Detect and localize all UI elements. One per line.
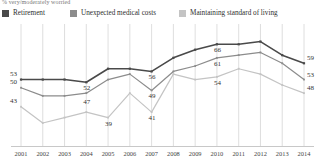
data-point	[216, 43, 218, 45]
legend-label-retirement: Retirement	[13, 9, 45, 18]
legend-swatch-standard	[179, 10, 186, 17]
data-point	[303, 62, 305, 64]
data-point	[64, 117, 66, 119]
data-point	[151, 90, 153, 92]
legend-label-standard: Maintaining standard of living	[190, 9, 278, 18]
data-label: 56	[149, 73, 156, 81]
data-label: 47	[83, 98, 90, 106]
data-label: 39	[105, 120, 112, 128]
data-point	[85, 81, 87, 83]
data-label: 48	[307, 84, 314, 92]
x-tick-label: 2006	[119, 150, 141, 157]
x-tick-label: 2005	[97, 150, 119, 157]
data-label: 43	[10, 97, 17, 105]
data-point	[238, 54, 240, 56]
x-axis-ticks: 2001200220032004200520062007200820092010…	[11, 150, 314, 164]
data-point	[216, 57, 218, 59]
x-tick-label: 2001	[10, 150, 32, 157]
data-point	[260, 73, 262, 75]
data-point	[107, 68, 109, 70]
legend-item-standard[interactable]: Maintaining standard of living	[179, 9, 278, 18]
data-point	[20, 106, 22, 108]
data-point	[151, 70, 153, 72]
data-point	[260, 52, 262, 54]
legend-item-medical[interactable]: Unexpected medical costs	[70, 9, 156, 18]
x-tick-label: 2014	[293, 150, 315, 157]
data-label: 59	[307, 54, 314, 62]
data-point	[151, 111, 153, 113]
data-label: 53	[307, 71, 314, 79]
data-label: 53	[10, 70, 17, 78]
data-point	[281, 84, 283, 86]
data-point	[194, 65, 196, 67]
data-point	[194, 49, 196, 51]
x-axis-line	[11, 146, 314, 147]
data-point	[129, 92, 131, 94]
chart-subtitle: % very/moderately worried	[2, 0, 70, 5]
data-point	[238, 43, 240, 45]
data-point	[172, 73, 174, 75]
data-point	[20, 78, 22, 80]
data-point	[172, 71, 174, 73]
legend-item-retirement[interactable]: Retirement	[2, 9, 45, 18]
data-point	[42, 122, 44, 124]
data-point	[42, 78, 44, 80]
data-point	[281, 54, 283, 56]
x-tick-label: 2003	[54, 150, 76, 157]
legend-label-medical: Unexpected medical costs	[81, 9, 156, 18]
data-point	[42, 95, 44, 97]
data-label: 52	[83, 84, 90, 92]
data-point	[20, 87, 22, 89]
data-point	[194, 79, 196, 81]
data-label: 54	[214, 79, 221, 87]
x-tick-label: 2002	[32, 150, 54, 157]
x-tick-label: 2004	[75, 150, 97, 157]
x-tick-label: 2013	[271, 150, 293, 157]
data-label: 66	[214, 46, 221, 54]
data-label: 50	[10, 78, 17, 86]
x-tick-label: 2008	[162, 150, 184, 157]
data-label: 49	[149, 92, 156, 100]
data-point	[107, 79, 109, 81]
x-tick-label: 2010	[206, 150, 228, 157]
data-point	[303, 92, 305, 94]
data-label: 41	[149, 114, 156, 122]
data-label: 61	[214, 60, 221, 68]
line-chart: % very/moderately worried Retirement Une…	[0, 0, 323, 168]
chart-legend: Retirement Unexpected medical costs Main…	[2, 9, 322, 20]
data-point	[85, 111, 87, 113]
data-point	[64, 95, 66, 97]
x-tick-label: 2012	[249, 150, 271, 157]
plot-svg	[11, 24, 314, 146]
legend-swatch-medical	[70, 10, 77, 17]
data-point	[129, 68, 131, 70]
plot-area	[11, 24, 314, 146]
x-tick-label: 2011	[228, 150, 250, 157]
x-tick-label: 2007	[141, 150, 163, 157]
data-point	[259, 40, 261, 42]
series-line-retirement	[21, 42, 304, 83]
data-point	[238, 68, 240, 70]
data-point	[216, 76, 218, 78]
data-point	[129, 73, 131, 75]
data-point	[303, 79, 305, 81]
data-point	[107, 117, 109, 119]
data-point	[63, 78, 65, 80]
data-point	[172, 57, 174, 59]
legend-swatch-retirement	[2, 10, 9, 17]
x-tick-label: 2009	[184, 150, 206, 157]
data-point	[281, 62, 283, 64]
data-point	[85, 92, 87, 94]
